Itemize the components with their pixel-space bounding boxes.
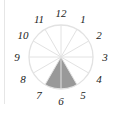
clock-numeral: 8 <box>20 73 26 85</box>
clock-numeral: 5 <box>80 89 86 101</box>
clock-numeral: 12 <box>56 7 68 19</box>
clock-numeral: 7 <box>36 89 42 101</box>
clock-diagram: 121234567891011 <box>0 0 115 114</box>
clock-numeral: 3 <box>101 51 108 63</box>
clock-numeral: 11 <box>34 13 44 25</box>
clock-numeral: 10 <box>17 29 29 41</box>
clock-numeral: 9 <box>14 51 20 63</box>
clock-numeral: 1 <box>80 13 86 25</box>
clock-numeral: 2 <box>96 29 102 41</box>
clock-numeral: 4 <box>96 73 102 85</box>
clock-numeral: 6 <box>58 95 64 107</box>
